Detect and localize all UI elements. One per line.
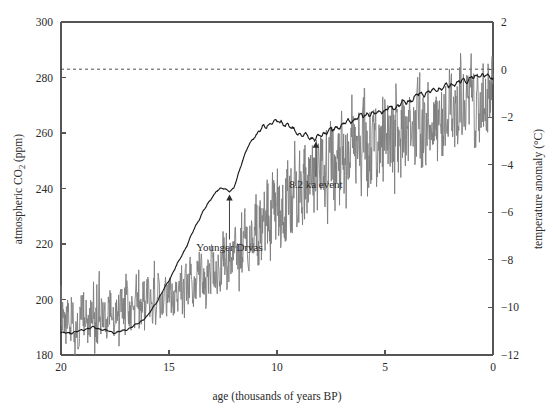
y-ticklabel-right: 2 — [501, 16, 507, 28]
y-ticklabel-left: 180 — [36, 349, 54, 361]
y-ticklabel-left: 260 — [36, 127, 54, 139]
figure-container: 180200220240260280300 −12−10−8−6−4−202 2… — [0, 0, 553, 415]
y-ticklabel-left: 280 — [36, 72, 54, 84]
x-ticklabel: 20 — [55, 361, 67, 373]
y-ticklabel-left: 300 — [36, 16, 54, 28]
y-ticklabel-left: 200 — [36, 294, 54, 306]
y-ticklabel-right: −6 — [501, 206, 513, 218]
x-ticklabel: 5 — [382, 361, 388, 373]
y-ticklabel-left: 240 — [36, 183, 54, 195]
x-axis-title: age (thousands of years BP) — [212, 390, 341, 403]
x-ticklabel: 0 — [490, 361, 496, 373]
annotation-label: 8.2 ka event — [289, 178, 342, 190]
y-axis-right-title: temperature anomaly (°C) — [532, 129, 545, 249]
y-ticklabel-left: 220 — [36, 238, 54, 250]
y-ticklabel-right: −10 — [501, 301, 519, 313]
x-ticklabel: 15 — [163, 361, 175, 373]
y-ticklabel-right: −2 — [501, 111, 513, 123]
co2-temperature-chart: 180200220240260280300 −12−10−8−6−4−202 2… — [0, 0, 553, 415]
y-ticklabel-right: −12 — [501, 349, 519, 361]
y-ticklabel-right: −4 — [501, 159, 513, 171]
annotation-label: Younger Dryas — [196, 241, 262, 253]
x-ticklabel: 10 — [271, 361, 283, 373]
y-ticklabel-right: 0 — [501, 64, 507, 76]
y-ticklabel-right: −8 — [501, 254, 513, 266]
